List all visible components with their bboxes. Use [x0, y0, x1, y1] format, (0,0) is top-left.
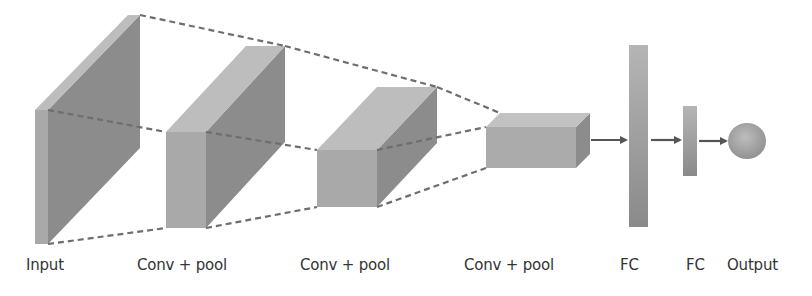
conv1-block [166, 46, 285, 228]
conv3-top-face [486, 113, 590, 127]
fc1-layer [629, 45, 648, 227]
conv3-front-face [486, 127, 576, 168]
label-conv2: Conv + pool [300, 256, 390, 274]
conv2-block [317, 87, 437, 207]
conv2-front-face [317, 150, 377, 207]
input-block [35, 15, 140, 244]
label-fc1: FC [620, 256, 639, 274]
conv1-front-face [166, 132, 206, 228]
label-conv3: Conv + pool [464, 256, 554, 274]
conv3-block [486, 113, 590, 168]
label-output: Output [727, 256, 778, 274]
label-conv1: Conv + pool [137, 256, 227, 274]
label-input: Input [26, 256, 64, 274]
output-node [728, 123, 766, 159]
dash-top-1 [140, 15, 285, 46]
input-side-face [48, 15, 140, 244]
dash-top-3 [437, 87, 500, 113]
dash-bot-1 [48, 228, 166, 244]
label-fc2: FC [686, 256, 705, 274]
dash-bot-2 [206, 207, 317, 228]
input-front-face [35, 110, 48, 244]
arrows [591, 140, 726, 141]
cnn-diagram [0, 0, 812, 296]
fc2-layer [683, 106, 697, 176]
dash-top-2 [285, 46, 437, 87]
